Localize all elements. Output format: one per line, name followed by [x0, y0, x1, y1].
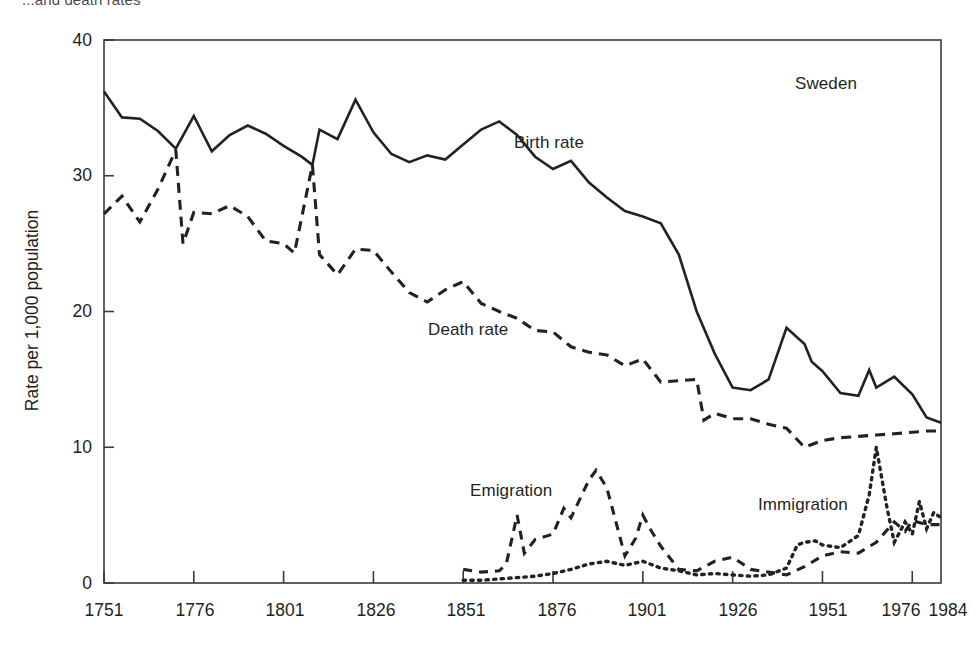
chart-figure: ...and death rates Rate per 1,000 popula…: [0, 0, 975, 648]
axis-tickmarks: [104, 40, 912, 583]
series-birth-rate: [104, 92, 941, 423]
plot-frame: [104, 40, 941, 583]
series-immigration: [463, 447, 941, 580]
plot-canvas: [0, 0, 975, 648]
series-death-rate: [104, 150, 941, 447]
